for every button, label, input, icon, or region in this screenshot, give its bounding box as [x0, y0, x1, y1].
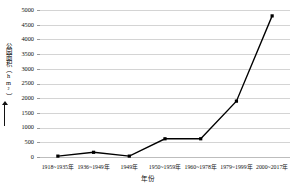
data-point-marker: [199, 137, 202, 140]
x-axis-tick-label: 1950~1959年: [149, 163, 181, 171]
data-point-marker: [235, 100, 238, 103]
data-point-marker: [92, 151, 95, 154]
x-axis-labels: 1918~1935年1936~1949年1949年1950~1959年1960~…: [22, 163, 296, 175]
data-point-marker: [271, 14, 274, 17]
x-axis-title: 年份: [0, 175, 296, 183]
series-line-park-area: [58, 16, 272, 156]
chart-container: 公园面积（hm²） 050010001500200025003000350040…: [0, 0, 296, 191]
data-point-marker: [163, 137, 166, 140]
x-axis-tick-label: 1936~1949年: [77, 163, 109, 171]
x-axis-tick-label: 1960~1978年: [185, 163, 217, 171]
x-axis-tick-label: 1949年: [120, 163, 138, 171]
x-axis-tick-label: 1979~1999年: [220, 163, 252, 171]
series-markers: [56, 14, 273, 157]
data-point-marker: [128, 155, 131, 158]
x-axis-tick-label: 1918~1935年: [42, 163, 74, 171]
data-point-marker: [56, 155, 59, 158]
x-axis-tick-label: 2000~2017年: [256, 163, 288, 171]
